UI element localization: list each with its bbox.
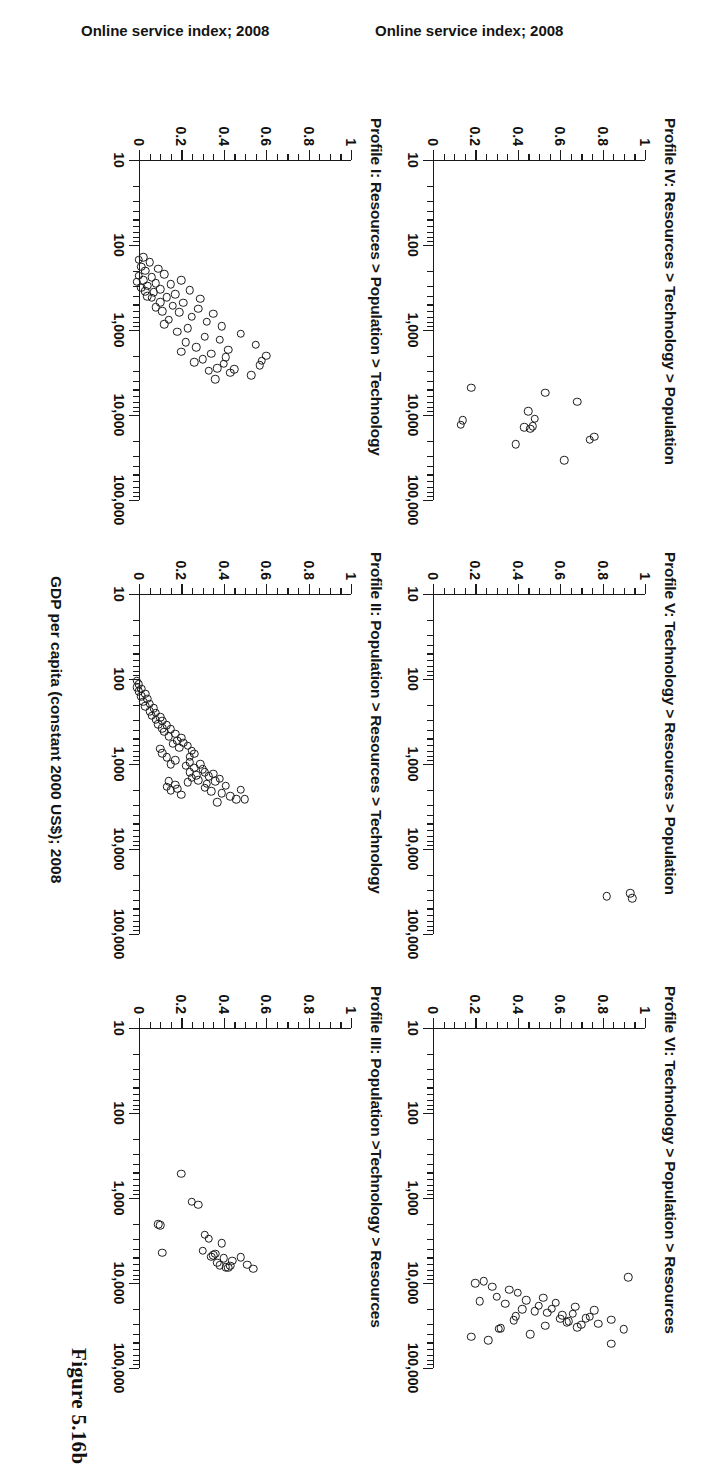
y-tick-minor xyxy=(171,1022,172,1028)
x-tick-minor xyxy=(427,1087,433,1088)
y-tick-major xyxy=(560,584,561,594)
y-tick-minor xyxy=(507,154,508,160)
x-tick-minor xyxy=(427,1364,433,1365)
x-tick-minor xyxy=(133,1275,139,1276)
x-tick-minor xyxy=(133,1360,139,1361)
x-tick-minor xyxy=(427,356,433,357)
x-tick-minor xyxy=(427,635,433,636)
y-tick-minor xyxy=(234,1022,235,1028)
y-tick-minor xyxy=(486,588,487,594)
scatter-point xyxy=(217,1239,226,1248)
y-tick-label: 0.2 xyxy=(173,127,189,146)
x-tick-minor xyxy=(133,481,139,482)
scatter-point xyxy=(181,762,190,771)
x-tick-minor xyxy=(133,1185,139,1186)
x-tick-minor xyxy=(427,226,433,227)
y-tick-major xyxy=(224,584,225,594)
y-tick-minor xyxy=(571,1022,572,1028)
y-tick-label: 1 xyxy=(637,1006,653,1014)
y-tick-minor xyxy=(444,588,445,594)
y-tick-major xyxy=(645,584,646,594)
y-tick-minor xyxy=(539,154,540,160)
x-tick-major xyxy=(129,1113,139,1114)
y-tick-minor xyxy=(340,154,341,160)
x-tick-minor xyxy=(427,219,433,220)
x-tick-label: 10 xyxy=(405,1020,421,1036)
y-tick-minor xyxy=(150,154,151,160)
scatter-point xyxy=(541,1322,550,1331)
x-tick-minor xyxy=(133,1239,139,1240)
x-tick-minor xyxy=(427,407,433,408)
scatter-point xyxy=(184,324,193,333)
x-tick-minor xyxy=(427,890,433,891)
x-tick-minor xyxy=(427,1164,433,1165)
y-axis-title-bottom-row: Online service index; 2008 xyxy=(81,22,269,39)
scatter-point xyxy=(217,789,226,798)
y-tick-minor xyxy=(528,588,529,594)
x-tick-minor xyxy=(133,1079,139,1080)
y-tick-label: 0 xyxy=(425,1006,441,1014)
scatter-point xyxy=(181,338,190,347)
x-tick-minor xyxy=(133,1172,139,1173)
x-tick-minor xyxy=(133,1069,139,1070)
x-tick-minor xyxy=(133,1054,139,1055)
x-tick-minor xyxy=(133,1100,139,1101)
x-tick-minor xyxy=(427,322,433,323)
y-tick-minor xyxy=(613,588,614,594)
x-tick-minor xyxy=(427,1360,433,1361)
x-tick-minor xyxy=(133,1190,139,1191)
x-tick-major xyxy=(129,500,139,501)
y-tick-label: 0.4 xyxy=(510,995,526,1014)
y-tick-major xyxy=(560,1018,561,1028)
x-tick-minor xyxy=(133,1324,139,1325)
y-tick-major xyxy=(518,1018,519,1028)
y-tick-label: 0.8 xyxy=(301,127,317,146)
x-tick-minor xyxy=(133,237,139,238)
x-tick-minor xyxy=(427,241,433,242)
x-tick-minor xyxy=(427,317,433,318)
x-tick-label: 10,000 xyxy=(111,828,127,871)
y-tick-minor xyxy=(287,1022,288,1028)
x-tick-minor xyxy=(133,356,139,357)
scatter-point xyxy=(501,1299,510,1308)
x-tick-label: 1,000 xyxy=(111,312,127,347)
y-tick-minor xyxy=(330,1022,331,1028)
x-tick-label: 10,000 xyxy=(405,828,421,871)
panel-title-profile-5: Profile V: Technology > Resources > Popu… xyxy=(661,552,679,952)
scatter-point xyxy=(177,1170,186,1179)
y-tick-minor xyxy=(234,154,235,160)
x-tick-label: 1,000 xyxy=(111,746,127,781)
x-tick-minor xyxy=(427,201,433,202)
scatter-point xyxy=(573,398,582,407)
x-tick-minor xyxy=(427,1324,433,1325)
y-tick-minor xyxy=(256,1022,257,1028)
scatter-point xyxy=(184,778,193,787)
y-tick-label: 0 xyxy=(425,138,441,146)
x-tick-minor xyxy=(133,474,139,475)
y-tick-label: 0.6 xyxy=(258,995,274,1014)
y-tick-label: 0.2 xyxy=(173,561,189,580)
y-tick-major xyxy=(139,584,140,594)
scatter-point xyxy=(171,290,180,299)
x-tick-minor xyxy=(133,653,139,654)
x-tick-minor xyxy=(133,211,139,212)
y-tick-major xyxy=(475,1018,476,1028)
y-tick-major xyxy=(266,150,267,160)
x-tick-label: 100 xyxy=(405,1101,421,1124)
y-tick-minor xyxy=(550,1022,551,1028)
y-tick-minor xyxy=(444,1022,445,1028)
y-tick-minor xyxy=(592,588,593,594)
scatter-point xyxy=(133,277,142,286)
x-tick-major xyxy=(129,934,139,935)
y-tick-major xyxy=(224,150,225,160)
scatter-point xyxy=(607,1340,616,1349)
x-tick-minor xyxy=(133,466,139,467)
scatter-point xyxy=(626,889,635,898)
scatter-point xyxy=(514,1288,523,1297)
x-tick-minor xyxy=(427,1249,433,1250)
y-axis-line xyxy=(139,1028,351,1029)
x-tick-minor xyxy=(133,745,139,746)
x-tick-minor xyxy=(427,1079,433,1080)
y-tick-label: 0.6 xyxy=(552,995,568,1014)
